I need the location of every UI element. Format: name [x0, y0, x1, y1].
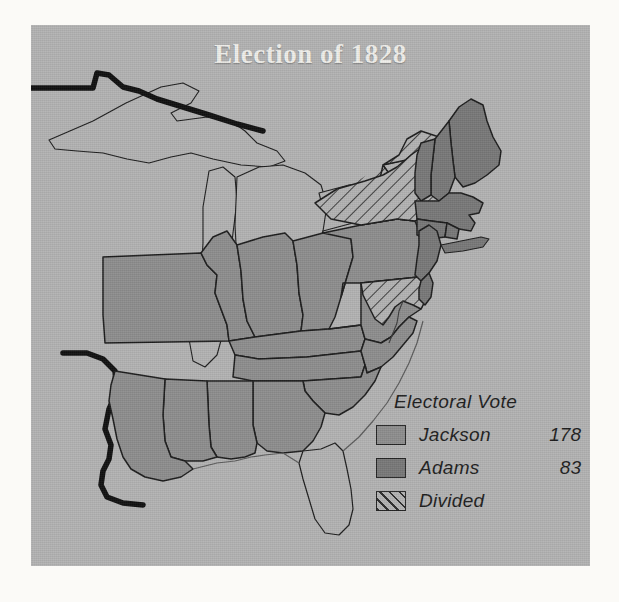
legend-row-adams: Adams 83: [376, 457, 581, 479]
map-panel: Election of 1828: [31, 25, 590, 566]
legend-label-jackson: Jackson: [419, 424, 541, 446]
legend-row-jackson: Jackson 178: [376, 424, 581, 446]
long-island: [441, 237, 489, 253]
legend-title: Electoral Vote: [394, 391, 581, 413]
state-new-jersey: [415, 225, 441, 281]
legend-value-adams: 83: [541, 457, 581, 479]
legend: Electoral Vote Jackson 178 Adams 83 Divi…: [376, 391, 581, 523]
legend-swatch-jackson: [376, 425, 406, 445]
legend-swatch-adams: [376, 458, 406, 478]
figure-frame: Election of 1828: [0, 0, 619, 602]
state-indiana: [237, 233, 303, 337]
legend-value-jackson: 178: [541, 424, 581, 446]
territory-florida: [299, 443, 353, 535]
legend-row-divided: Divided: [376, 490, 581, 512]
legend-swatch-divided: [376, 491, 406, 511]
state-alabama: [207, 381, 257, 459]
legend-label-divided: Divided: [419, 490, 541, 512]
state-maine: [449, 99, 501, 187]
legend-label-adams: Adams: [419, 457, 541, 479]
